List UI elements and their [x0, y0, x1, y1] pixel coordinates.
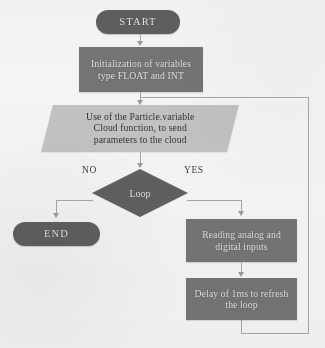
- feedback-loop-bottom-segment: [241, 333, 309, 334]
- node-initialization: Initialization of variables type FLOAT a…: [79, 47, 203, 92]
- feedback-loop-top-segment: [140, 97, 309, 98]
- connector-no-horizontal: [56, 200, 93, 201]
- arrowhead-start-to-init: [137, 41, 143, 46]
- node-end-label: END: [44, 228, 69, 240]
- node-delay: Delay of 1ms to refresh the loop: [186, 278, 297, 320]
- arrowhead-cloud-to-decision: [137, 163, 143, 168]
- node-reading-inputs: Reading analog and digital inputs: [186, 219, 297, 262]
- flowchart-canvas: START Initialization of variables type F…: [0, 0, 325, 348]
- node-start: START: [96, 10, 180, 34]
- node-delay-label: Delay of 1ms to refresh the loop: [195, 288, 289, 311]
- connector-yes-horizontal: [187, 200, 242, 201]
- node-decision-loop: Loop: [92, 169, 188, 217]
- arrowhead-no-to-end: [53, 213, 59, 218]
- node-cloud-function: Use of the Particle.variable Cloud funct…: [41, 105, 239, 152]
- node-reading-inputs-label: Reading analog and digital inputs: [202, 229, 281, 252]
- arrowhead-yes-to-reading: [238, 211, 244, 216]
- node-cloud-function-label: Use of the Particle.variable Cloud funct…: [86, 111, 194, 145]
- branch-label-yes: YES: [184, 165, 204, 175]
- node-initialization-label: Initialization of variables type FLOAT a…: [91, 58, 191, 81]
- arrowhead-reading-to-delay: [238, 272, 244, 277]
- branch-label-no: NO: [82, 165, 97, 175]
- node-end: END: [13, 222, 100, 246]
- node-decision-loop-label: Loop: [129, 188, 150, 199]
- feedback-loop-right-segment: [308, 97, 309, 334]
- node-start-label: START: [119, 16, 156, 28]
- connector-no-vertical: [56, 200, 57, 214]
- feedback-loop-delay-stub: [241, 320, 242, 334]
